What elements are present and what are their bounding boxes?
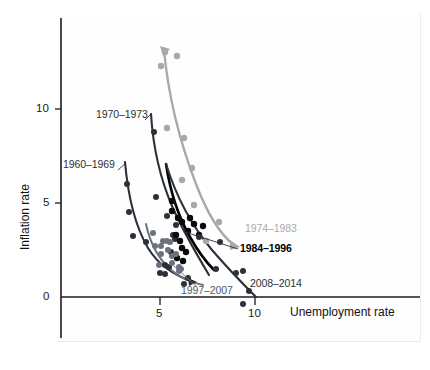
x-axis-title: Unemployment rate (290, 305, 395, 319)
y-axis-title: Inflation rate (18, 184, 32, 250)
series-label-1960-1969: 1960–1969 (63, 158, 115, 170)
x-tick-label-10: 10 (248, 307, 261, 319)
series-label-1974-1983: 1974–1983 (245, 222, 297, 234)
fit-curves-group (125, 46, 256, 297)
x-tick-label-5: 5 (156, 307, 162, 319)
axes-group (55, 18, 420, 338)
series-label-1970-1973: 1970–1973 (96, 108, 148, 120)
y-tick-label-0: 0 (43, 290, 49, 302)
y-tick-label-10: 10 (36, 102, 49, 114)
data-points-group (124, 49, 252, 307)
series-label-1997-2007: 1997–2007 (181, 284, 233, 296)
series-label-1984-1996: 1984–1996 (240, 242, 292, 254)
chart-figure: 10 5 0 5 10 Inflation rate Unemployment … (0, 0, 430, 370)
figure-caption (8, 352, 422, 366)
fit-curve-1974-1983 (164, 50, 234, 245)
series-label-2008-2014: 2008–2014 (250, 277, 302, 289)
y-tick-label-5: 5 (43, 196, 49, 208)
